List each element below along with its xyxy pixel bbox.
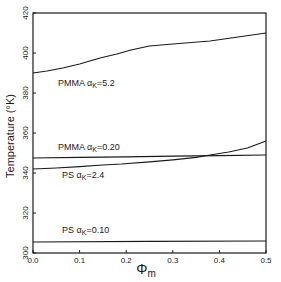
y-tick-label: 420: [21, 6, 30, 20]
series-group: [33, 33, 266, 242]
y-tick-label: 360: [21, 126, 30, 140]
series-line: [33, 155, 266, 158]
x-axis-ticks: 0.00.10.20.30.40.5: [27, 250, 272, 265]
series-label: PS αK=0.10: [62, 225, 109, 236]
plot-frame: [33, 13, 266, 253]
chart: 300320340360380400420 0.00.10.20.30.40.5…: [0, 0, 281, 282]
y-tick-label: 340: [21, 166, 30, 180]
y-axis-ticks: 300320340360380400420: [21, 6, 36, 260]
x-tick-label: 0.2: [121, 256, 133, 265]
series-line: [33, 241, 266, 242]
y-axis-label: Temperature (°K): [4, 94, 16, 178]
x-tick-label: 0.5: [260, 256, 272, 265]
y-tick-label: 320: [21, 206, 30, 220]
x-tick-label: 0.4: [214, 256, 226, 265]
x-axis-label-main: Φ: [136, 261, 147, 277]
x-tick-label: 0.1: [74, 256, 86, 265]
x-tick-label: 0.3: [167, 256, 179, 265]
y-tick-label: 400: [21, 46, 30, 60]
x-tick-label: 0.0: [27, 256, 39, 265]
y-tick-label: 380: [21, 86, 30, 100]
series-label: PS αK=2.4: [62, 170, 104, 181]
series-label: PMMA αK=5.2: [58, 78, 115, 89]
x-axis-label-subscript: m: [147, 268, 155, 279]
series-label: PMMA αK=0.20: [58, 142, 120, 153]
series-line: [33, 33, 266, 73]
x-axis-label: Φm: [136, 261, 156, 279]
